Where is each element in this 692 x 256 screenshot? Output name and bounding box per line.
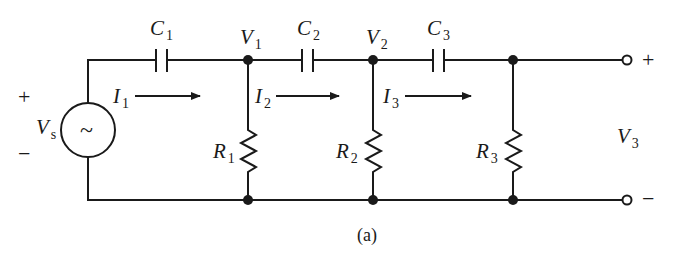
- capacitor-c2-symbol: [302, 49, 313, 72]
- current-i3-label: I3: [383, 86, 399, 111]
- r2-main: R: [336, 139, 349, 163]
- v1-sub: 1: [255, 37, 262, 52]
- output-terminal-minus: [623, 196, 632, 205]
- i1-sub: 1: [122, 96, 129, 111]
- current-i1-label: I1: [113, 86, 129, 111]
- c1-sub: 1: [166, 28, 173, 43]
- node-v2-dot: [368, 55, 378, 65]
- output-voltage-label: V3: [617, 126, 639, 151]
- source-minus-sign: −: [18, 143, 30, 165]
- source-label-sub: s: [51, 127, 56, 142]
- r1-main: R: [213, 139, 226, 163]
- current-i2-label: I2: [255, 86, 271, 111]
- output-minus-sign: −: [642, 188, 654, 210]
- node-v1-dot: [243, 55, 253, 65]
- v3-main: V: [617, 124, 630, 148]
- r2-sub: 2: [351, 151, 358, 166]
- node-v1-label: V1: [240, 27, 262, 52]
- node-v3-ground-dot: [508, 195, 518, 205]
- resistor-r3-symbol: [506, 60, 521, 200]
- node-v1-ground-dot: [243, 195, 253, 205]
- node-v2-label: V2: [366, 27, 388, 52]
- output-terminal-plus: [623, 56, 632, 65]
- capacitor-c3-label: C3: [427, 18, 450, 43]
- figure-caption: (a): [357, 226, 377, 244]
- i2-sub: 2: [264, 96, 271, 111]
- resistor-r3-label: R3: [476, 141, 498, 166]
- source-label: Vs: [36, 117, 56, 142]
- v2-main: V: [366, 25, 379, 49]
- c2-main: C: [297, 16, 311, 40]
- resistor-r2-symbol: [366, 60, 381, 200]
- capacitor-c1-label: C1: [150, 18, 173, 43]
- capacitor-c1-symbol: [156, 49, 167, 72]
- r3-sub: 3: [491, 151, 498, 166]
- output-plus-sign: +: [642, 49, 654, 71]
- node-v3-dot: [508, 55, 518, 65]
- c2-sub: 2: [313, 28, 320, 43]
- c1-main: C: [150, 16, 164, 40]
- i1-main: I: [113, 84, 120, 108]
- resistor-r2-label: R2: [336, 141, 358, 166]
- source-label-main: V: [36, 115, 49, 139]
- tilde-icon: ~: [80, 118, 93, 142]
- v2-sub: 2: [381, 37, 388, 52]
- r1-sub: 1: [228, 151, 235, 166]
- source-plus-sign: +: [18, 86, 30, 108]
- circuit-schematic: [0, 0, 692, 256]
- v1-main: V: [240, 25, 253, 49]
- resistor-r1-symbol: [241, 60, 256, 200]
- c3-sub: 3: [443, 28, 450, 43]
- capacitor-c2-label: C2: [297, 18, 320, 43]
- i3-main: I: [383, 84, 390, 108]
- r3-main: R: [476, 139, 489, 163]
- capacitor-c3-symbol: [433, 49, 444, 72]
- c3-main: C: [427, 16, 441, 40]
- node-v2-ground-dot: [368, 195, 378, 205]
- i2-main: I: [255, 84, 262, 108]
- v3-sub: 3: [632, 136, 639, 151]
- resistor-r1-label: R1: [213, 141, 235, 166]
- i3-sub: 3: [392, 96, 399, 111]
- circuit-diagram: + Vs − ~ C1 C2 C3 V1 V2 I1 I2 I3 R1 R2 R…: [0, 0, 692, 256]
